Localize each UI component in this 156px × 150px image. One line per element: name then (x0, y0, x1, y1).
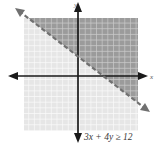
inequality-text: 3x + 4y ≥ 12 (84, 132, 133, 142)
x-axis-letter: x (149, 73, 154, 81)
inequality-graph-figure: x y 3x + 4y ≥ 12 (0, 0, 156, 150)
inequality-label: 3x + 4y ≥ 12 (84, 131, 133, 143)
graph-canvas: x y (0, 0, 156, 150)
